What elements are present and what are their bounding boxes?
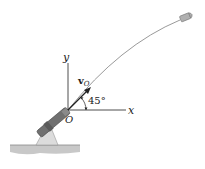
velocity-vector xyxy=(68,90,88,110)
velocity-label: vO xyxy=(77,75,90,88)
trajectory-curve xyxy=(68,20,180,110)
origin-label: O xyxy=(65,114,73,125)
y-axis-label: y xyxy=(62,51,70,64)
ground xyxy=(10,145,80,154)
x-axis-label: x xyxy=(128,104,135,117)
angle-label: 45° xyxy=(88,95,106,106)
projectile xyxy=(179,12,193,22)
projectile-diagram: y x O vO 45° xyxy=(0,0,205,169)
